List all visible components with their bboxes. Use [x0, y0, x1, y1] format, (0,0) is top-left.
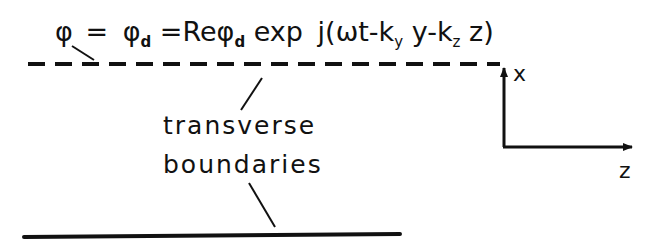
boundary-label-line1: transverse [163, 111, 316, 140]
diagram-canvas: φ = φd =Reφd exp j(ωt-ky y-kz z) transve… [0, 0, 655, 249]
top-boundary-leader [241, 78, 262, 110]
boundary-label-line2: boundaries [163, 150, 323, 179]
x-axis-label: x [513, 61, 526, 86]
z-axis-label: z [619, 158, 631, 183]
bottom-boundary-leader [249, 183, 275, 227]
phi-leader-line [72, 46, 94, 60]
bottom-solid-boundary [24, 234, 400, 237]
equation: φ = φd =Reφd exp j(ωt-ky y-kz z) [55, 16, 494, 53]
